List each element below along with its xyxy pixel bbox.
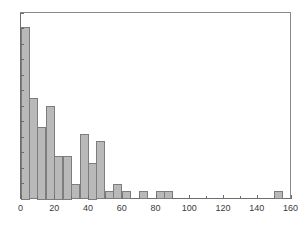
histogram-bar (47, 107, 55, 200)
x-axis-tick-label: 40 (83, 203, 93, 213)
histogram-bar (72, 185, 80, 199)
x-axis-tick-label: 60 (117, 203, 127, 213)
histogram-bar (165, 192, 173, 199)
histogram-bar (22, 28, 30, 200)
histogram-bar (38, 128, 46, 200)
histogram-bar (55, 157, 63, 200)
histogram-bar (123, 192, 131, 199)
histogram-bar (106, 192, 114, 199)
x-axis-tick-label: 100 (182, 203, 197, 213)
x-axis-tick-label: 160 (283, 203, 298, 213)
x-axis-tick-label: 140 (249, 203, 264, 213)
x-axis-tick-label: 80 (150, 203, 160, 213)
histogram-bar (275, 192, 283, 199)
histogram-chart: 020406080100120140160 (0, 0, 305, 234)
histogram-bar (140, 192, 148, 199)
histogram-bar (64, 157, 72, 200)
histogram-bar (157, 192, 165, 199)
histogram-bar (97, 142, 105, 199)
histogram-bar (89, 164, 97, 200)
histogram-bar (114, 185, 122, 199)
x-axis-tick-label: 120 (215, 203, 230, 213)
x-axis-tick-label: 20 (49, 203, 59, 213)
histogram-bar (30, 99, 38, 199)
x-axis-tick-label: 0 (18, 203, 23, 213)
histogram-bar (81, 135, 89, 199)
histogram-figure: 020406080100120140160 (0, 0, 305, 234)
